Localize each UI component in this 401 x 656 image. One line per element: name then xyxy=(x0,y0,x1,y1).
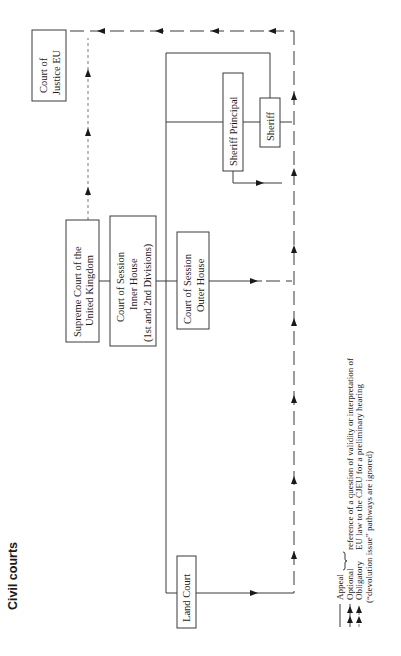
legend-bracket xyxy=(343,552,347,570)
inner-house-label-line3: (1st and 2nd Divisions) xyxy=(142,243,154,342)
court-sheriff-principal: Sheriff Principal xyxy=(223,73,243,171)
sheriff-principal-label: Sheriff Principal xyxy=(228,96,239,166)
outer-house-label-line1: Court of Session xyxy=(182,253,193,324)
outer-house-label-line2: Outer House xyxy=(195,258,206,312)
land-court-label: Land Court xyxy=(181,574,192,622)
supreme-label-line1: Supreme Court of the xyxy=(72,246,83,337)
cjeu-label-line1: Court of xyxy=(38,57,49,93)
diagram-title: Civil courts xyxy=(6,542,20,610)
supreme-court-reference-path xyxy=(85,38,91,220)
legend-appeal-label: Appeal xyxy=(335,574,345,600)
inner-house-label-line2: Inner House xyxy=(128,258,139,310)
civil-courts-diagram: Civil courts xyxy=(0,0,401,656)
legend-obligatory-label: Obligatory xyxy=(354,561,364,600)
court-session-inner-house: Court of Session Inner House (1st and 2n… xyxy=(110,216,156,346)
court-supreme-court-uk: Supreme Court of the United Kingdom xyxy=(66,220,99,342)
supreme-label-line2: United Kingdom xyxy=(84,255,95,326)
cjeu-label-line2: Justice EU xyxy=(51,49,62,95)
court-sheriff: Sheriff xyxy=(260,98,280,147)
legend-footnote: (“devolution issue” pathways are ignored… xyxy=(364,451,374,603)
court-session-outer-house: Court of Session Outer House xyxy=(177,232,209,329)
court-cjeu: Court of Justice EU xyxy=(32,30,66,101)
inner-house-label-line1: Court of Session xyxy=(115,251,126,322)
legend: Appeal Optional Obligatory reference of … xyxy=(335,358,374,627)
court-land-court: Land Court xyxy=(177,556,196,628)
sheriff-label: Sheriff xyxy=(265,112,276,141)
legend-reference-note-line2: EU law to the CJEU for a preliminary hea… xyxy=(354,384,364,550)
